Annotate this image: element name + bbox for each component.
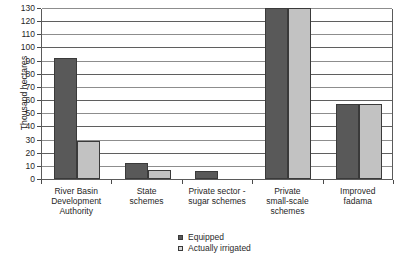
y-axis-tick-label: 0 [11,175,35,184]
legend-label: Equipped [188,232,224,243]
x-axis-category-label: Improvedfadama [323,186,393,206]
bar-equipped [54,58,77,179]
x-axis-label-line: schemes [252,206,322,216]
x-axis-label-line: Private sector - [182,186,252,196]
bar-equipped [195,171,218,179]
x-axis-label-line: sugar schemes [182,196,252,206]
x-axis-label-line: Development [41,196,111,206]
bar-equipped [125,163,148,179]
x-axis-category-label: Privatesmall-scaleschemes [252,186,322,216]
chart-legend: EquippedActually irrigated [178,232,251,254]
y-axis-tick-label: 90 [11,57,35,66]
y-axis-tick-label: 50 [11,109,35,118]
x-axis-tick [111,180,112,184]
x-axis-label-line: small-scale [252,196,322,206]
bar-equipped [265,8,288,179]
plot-area [41,9,393,180]
legend-item: Actually irrigated [178,243,251,254]
x-axis-label-line: Improved [323,186,393,196]
x-axis-category-label: Stateschemes [111,186,181,206]
legend-label: Actually irrigated [188,243,251,254]
y-axis-tick-label: 30 [11,136,35,145]
x-axis-label-line: River Basin [41,186,111,196]
y-axis-tick-label: 100 [11,43,35,52]
bar-actually-irrigated [148,170,171,179]
x-axis-label-line: schemes [111,196,181,206]
bar-actually-irrigated [359,104,382,179]
x-axis-category-label: River BasinDevelopmentAuthority [41,186,111,216]
x-axis-tick [393,180,394,184]
x-axis-label-line: Authority [41,206,111,216]
x-axis-tick [41,180,42,184]
legend-item: Equipped [178,232,251,243]
y-axis-tick-label: 40 [11,122,35,131]
y-axis-tick-label: 60 [11,96,35,105]
x-axis-tick [252,180,253,184]
y-axis-tick-label: 110 [11,30,35,39]
bar-chart: Thousand hectares 0102030405060708090100… [0,0,414,263]
y-axis-tick-label: 20 [11,149,35,158]
y-axis-tick-label: 120 [11,17,35,26]
y-axis-tick-label: 130 [11,4,35,13]
y-axis-tick-label: 10 [11,162,35,171]
bar-actually-irrigated [77,141,100,179]
y-axis-tick-label: 70 [11,83,35,92]
x-axis-tick [323,180,324,184]
y-axis-tick-label: 80 [11,70,35,79]
legend-swatch-icon [178,246,183,251]
x-axis-label-line: fadama [323,196,393,206]
x-axis-label-line: State [111,186,181,196]
bar-equipped [336,104,359,179]
legend-swatch-icon [178,235,183,240]
bars-layer [42,9,392,179]
bar-actually-irrigated [288,8,311,179]
x-axis-category-label: Private sector -sugar schemes [182,186,252,206]
x-axis-tick [182,180,183,184]
x-axis-label-line: Private [252,186,322,196]
